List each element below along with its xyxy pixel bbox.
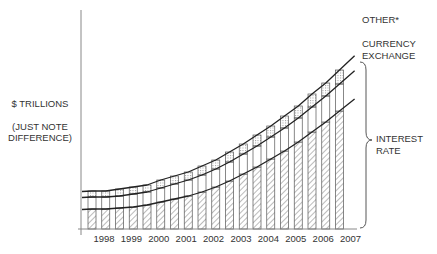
x-tick-label: 2001	[176, 233, 197, 244]
x-tick-label: 2007	[340, 233, 361, 244]
bar-interest-rate	[281, 151, 289, 229]
bar-interest-rate	[157, 202, 165, 229]
legend-currency-line1: CURRENCY	[362, 38, 416, 49]
legend-interest-line1: INTEREST	[376, 133, 423, 144]
x-tick-label: 2006	[313, 233, 334, 244]
bars-group	[88, 70, 344, 229]
bar-currency-exchange	[294, 118, 302, 142]
bar-interest-rate	[308, 132, 316, 229]
bar-currency-exchange	[143, 192, 151, 205]
bar-other	[88, 191, 96, 197]
bar-interest-rate	[336, 111, 344, 229]
bar-interest-rate	[212, 187, 220, 229]
bar-other	[102, 191, 110, 197]
bar-currency-exchange	[336, 84, 344, 111]
legend-other: OTHER*	[362, 14, 399, 25]
bar-interest-rate	[88, 209, 96, 229]
x-tick-label: 2000	[148, 233, 169, 244]
x-tick-label: 2005	[285, 233, 306, 244]
bar-interest-rate	[198, 192, 206, 229]
bar-interest-rate	[171, 199, 179, 229]
y-axis-note-line1: (JUST NOTE	[0, 121, 80, 132]
bar-currency-exchange	[239, 154, 247, 174]
bar-interest-rate	[116, 208, 124, 229]
bar-currency-exchange	[212, 169, 220, 187]
bar-currency-exchange	[116, 196, 124, 208]
bar-currency-exchange	[253, 146, 261, 167]
interest-rate-brace	[360, 62, 372, 228]
bar-currency-exchange	[322, 96, 330, 122]
bar-interest-rate	[322, 122, 330, 229]
legend-currency-line2: EXCHANGE	[362, 50, 415, 61]
bar-currency-exchange	[129, 194, 137, 207]
bar-interest-rate	[226, 181, 234, 229]
bar-interest-rate	[267, 159, 275, 229]
x-tick-label: 1998	[93, 233, 114, 244]
bar-currency-exchange	[157, 188, 165, 202]
bar-currency-exchange	[308, 107, 316, 132]
y-axis-title: $ TRILLIONS	[0, 98, 80, 109]
bar-interest-rate	[239, 174, 247, 229]
x-tick-label: 2004	[258, 233, 279, 244]
bar-currency-exchange	[281, 128, 289, 151]
y-axis-note-line2: DIFFERENCE)	[0, 132, 80, 143]
bar-currency-exchange	[226, 162, 234, 181]
x-tick-label: 2003	[230, 233, 251, 244]
bar-currency-exchange	[184, 180, 192, 196]
bar-interest-rate	[143, 205, 151, 229]
bar-interest-rate	[129, 207, 137, 229]
bar-currency-exchange	[102, 197, 110, 209]
bar-interest-rate	[184, 196, 192, 229]
bar-currency-exchange	[171, 184, 179, 199]
bar-interest-rate	[294, 142, 302, 229]
legend-interest-line2: RATE	[376, 145, 401, 156]
bar-currency-exchange	[88, 197, 96, 209]
bar-interest-rate	[253, 167, 261, 229]
bar-currency-exchange	[267, 137, 275, 159]
bar-currency-exchange	[198, 175, 206, 192]
x-tick-label: 2002	[203, 233, 224, 244]
bar-interest-rate	[102, 209, 110, 229]
x-tick-label: 1999	[121, 233, 142, 244]
